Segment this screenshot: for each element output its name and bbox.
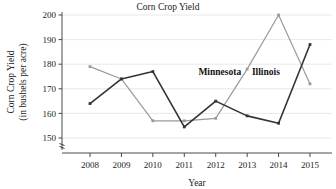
data-point [89, 102, 92, 105]
chart-title: Corn Crop Yield [137, 2, 200, 12]
data-point [120, 78, 123, 81]
y-axis-title-line2: (in bushels per acre) [18, 43, 29, 120]
x-tick-label: 2010 [144, 160, 163, 170]
data-point [183, 119, 186, 122]
data-point [309, 82, 312, 85]
data-point [277, 122, 280, 125]
y-tick-label: 190 [43, 35, 57, 45]
series-label-illinois: Illinois [252, 67, 280, 77]
y-tick-label: 200 [43, 10, 57, 20]
data-point [277, 14, 280, 17]
data-point [214, 100, 217, 103]
x-tick-label: 2008 [81, 160, 100, 170]
y-tick-label: 180 [43, 59, 57, 69]
y-axis-title-line1: Corn Crop Yield [6, 50, 16, 113]
corn-crop-yield-line-chart: Corn Crop Yield 150160170180190200 20082… [0, 0, 336, 189]
x-tick-label: 2009 [112, 160, 131, 170]
x-axis-title: Year [188, 178, 206, 188]
data-point [183, 126, 186, 129]
data-point [309, 43, 312, 46]
data-point [151, 119, 154, 122]
y-tick-label: 150 [43, 133, 57, 143]
series-label-minnesota: Minnesota [198, 67, 241, 77]
y-tick-label: 160 [43, 109, 57, 119]
data-point [151, 70, 154, 73]
data-point [89, 65, 92, 68]
data-point [246, 114, 249, 117]
x-tick-label: 2013 [238, 160, 257, 170]
y-tick-label: 170 [43, 84, 57, 94]
x-tick-label: 2012 [207, 160, 225, 170]
x-tick-label: 2011 [175, 160, 193, 170]
x-tick-label: 2014 [270, 160, 289, 170]
data-point [214, 117, 217, 120]
data-point [246, 68, 249, 71]
chart-container: Corn Crop Yield 150160170180190200 20082… [0, 0, 336, 189]
x-tick-label: 2015 [301, 160, 320, 170]
